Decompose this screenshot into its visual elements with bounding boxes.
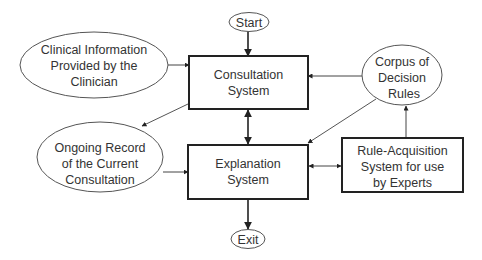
node-exit: Exit bbox=[231, 230, 265, 249]
start-label: Start bbox=[236, 16, 263, 30]
rule-acquisition-line-3: by Experts bbox=[373, 176, 432, 190]
node-rule-acquisition-system: Rule-Acquisition System for use by Exper… bbox=[342, 138, 463, 192]
ongoing-record-line-3: Consultation bbox=[65, 173, 135, 187]
consultation-system-line-2: System bbox=[228, 84, 270, 98]
edge-consultation-to-ongoing-record bbox=[142, 104, 188, 126]
ongoing-record-line-2: of the Current bbox=[62, 157, 139, 171]
exit-label: Exit bbox=[238, 233, 259, 247]
clinical-information-line-1: Clinical Information bbox=[41, 43, 147, 57]
clinical-information-line-2: Provided by the bbox=[51, 59, 138, 73]
corpus-line-3: Rules bbox=[388, 87, 420, 101]
edge-corpus-to-explanation bbox=[308, 99, 376, 143]
consultation-system-box bbox=[189, 56, 308, 109]
consultation-system-line-1: Consultation bbox=[214, 68, 284, 82]
corpus-line-2: Decision bbox=[378, 71, 426, 85]
ongoing-record-line-1: Ongoing Record bbox=[54, 141, 145, 155]
explanation-system-box bbox=[188, 145, 308, 199]
node-start: Start bbox=[229, 13, 269, 32]
flowchart-canvas: Start Clinical Information Provided by t… bbox=[0, 0, 482, 260]
node-clinical-information: Clinical Information Provided by the Cli… bbox=[20, 32, 168, 98]
explanation-system-line-2: System bbox=[227, 173, 269, 187]
clinical-information-line-3: Clinician bbox=[70, 75, 117, 89]
rule-acquisition-line-1: Rule-Acquisition bbox=[357, 144, 447, 158]
node-ongoing-record: Ongoing Record of the Current Consultati… bbox=[37, 122, 163, 192]
explanation-system-line-1: Explanation bbox=[215, 157, 280, 171]
corpus-line-1: Corpus of bbox=[375, 55, 430, 69]
node-consultation-system: Consultation System bbox=[189, 56, 308, 109]
node-explanation-system: Explanation System bbox=[188, 145, 308, 199]
rule-acquisition-line-2: System for use bbox=[361, 160, 444, 174]
node-corpus-of-decision-rules: Corpus of Decision Rules bbox=[362, 45, 442, 105]
